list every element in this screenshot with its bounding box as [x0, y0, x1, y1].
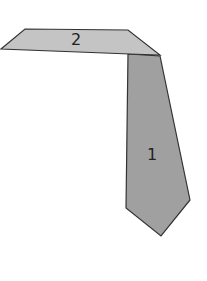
diagram-canvas: 1 2 — [0, 0, 207, 281]
shape-2-label: 2 — [71, 30, 81, 49]
shape-1-tie-body — [126, 54, 190, 236]
shape-1-label: 1 — [147, 145, 157, 164]
